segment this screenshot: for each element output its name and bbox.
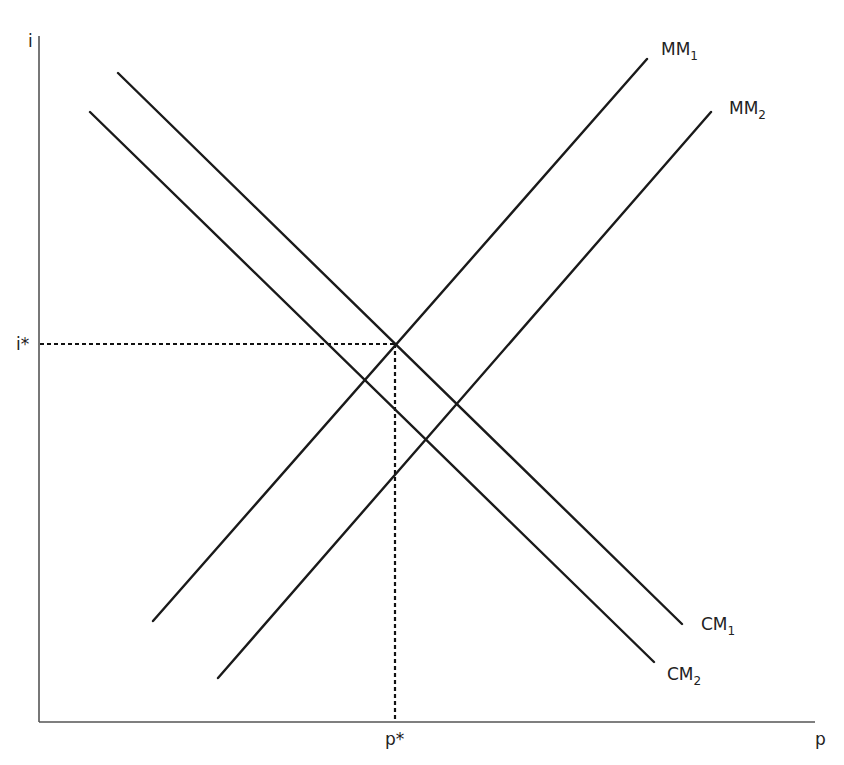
curve-mm1 (153, 59, 647, 621)
p-star-label: p* (385, 729, 404, 749)
x-axis-label: p (815, 729, 826, 749)
supply-demand-diagram: i p i* p* MM1 MM2 CM1 CM2 (0, 0, 844, 765)
i-star-label: i* (16, 334, 29, 354)
cm2-label: CM2 (667, 664, 701, 688)
y-axis-label: i (28, 31, 33, 51)
cm1-label: CM1 (701, 614, 735, 638)
mm2-label: MM2 (729, 98, 766, 122)
curve-mm2 (218, 112, 711, 678)
curve-cm1 (118, 73, 682, 624)
curve-cm2 (90, 112, 654, 662)
mm1-label: MM1 (661, 39, 698, 63)
